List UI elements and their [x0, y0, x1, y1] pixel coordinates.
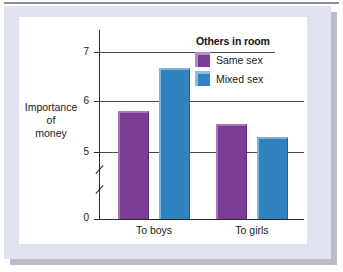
bar-to-boys-same-sex[interactable] — [118, 111, 149, 219]
x-axis-line — [99, 219, 304, 220]
chart-panel: Importance of money 7 6 5 0 — [19, 17, 307, 244]
y-tick-mark-6 — [94, 101, 100, 102]
y-tick-label-6: 6 — [67, 96, 89, 106]
bar-to-girls-mixed-sex[interactable] — [257, 137, 288, 219]
purple-swatch-icon — [195, 52, 210, 67]
y-axis-title-line-3: money — [20, 127, 82, 140]
figure-root: Importance of money 7 6 5 0 — [0, 0, 343, 272]
y-tick-mark-0 — [94, 219, 100, 220]
legend-item-label-mixed-sex: Mixed sex — [216, 73, 263, 85]
legend-item-same-sex[interactable]: Same sex — [195, 52, 303, 67]
bar-to-girls-same-sex[interactable] — [216, 124, 247, 219]
y-tick-label-7: 7 — [67, 47, 89, 57]
x-tick-label-to-girls: To girls — [212, 224, 292, 236]
x-tick-label-to-boys: To boys — [114, 224, 194, 236]
y-axis-line — [99, 30, 100, 220]
legend-item-mixed-sex[interactable]: Mixed sex — [195, 71, 303, 86]
legend-item-label-same-sex: Same sex — [216, 54, 263, 66]
bar-to-boys-mixed-sex[interactable] — [159, 68, 190, 219]
y-tick-mark-7 — [94, 52, 100, 53]
legend-title: Others in room — [196, 35, 303, 47]
y-axis-title: Importance of money — [20, 101, 82, 140]
gridline-6 — [100, 101, 304, 102]
y-tick-label-5: 5 — [67, 147, 89, 157]
plot-area: Importance of money 7 6 5 0 — [19, 17, 307, 244]
blue-swatch-icon — [195, 71, 210, 86]
y-tick-label-0: 0 — [67, 213, 89, 223]
y-tick-mark-5 — [94, 152, 100, 153]
top-rule-divider — [4, 2, 339, 4]
legend: Others in room Same sex Mixed sex — [195, 35, 303, 90]
y-axis-title-line-2: of — [20, 114, 82, 127]
